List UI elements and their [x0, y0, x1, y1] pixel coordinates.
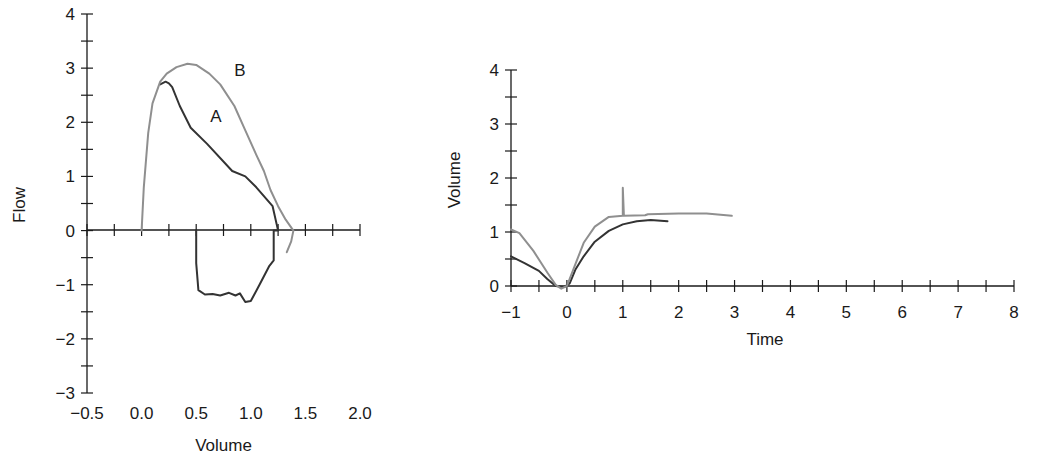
x-tick-label: 5 [842, 303, 851, 322]
y-tick-label: 1 [490, 223, 499, 242]
x-tick-label: 1.5 [294, 404, 318, 423]
x-tick-label: 0.0 [130, 404, 154, 423]
x-tick-label: 0.5 [184, 404, 208, 423]
curve-label-a: A [210, 107, 222, 126]
x-tick-label: −0.5 [70, 404, 104, 423]
flow-volume-chart: −3−2−101234−0.50.00.51.01.52.0VolumeFlow… [10, 5, 372, 455]
x-axis-label: Time [746, 330, 783, 349]
y-axis-label: Volume [445, 152, 464, 209]
y-tick-label: −2 [56, 330, 75, 349]
series-b [142, 64, 294, 252]
x-tick-label: 1 [618, 303, 627, 322]
y-tick-label: 4 [490, 61, 499, 80]
x-tick-label: 1.0 [239, 404, 263, 423]
y-tick-label: 2 [490, 169, 499, 188]
curve-label-b: B [234, 61, 245, 80]
x-tick-label: 4 [786, 303, 795, 322]
x-tick-label: −1 [501, 303, 520, 322]
y-tick-label: −1 [56, 276, 75, 295]
y-tick-label: 1 [66, 167, 75, 186]
y-tick-label: 4 [66, 5, 75, 24]
y-tick-label: −3 [56, 384, 75, 403]
x-tick-label: 2 [674, 303, 683, 322]
y-tick-label: 2 [66, 113, 75, 132]
x-tick-label: 7 [953, 303, 962, 322]
series-b [511, 188, 732, 289]
x-tick-label: 3 [730, 303, 739, 322]
volume-time-chart: 01234−1012345678TimeVolume [445, 61, 1019, 349]
x-tick-label: 8 [1009, 303, 1018, 322]
y-tick-label: 3 [490, 115, 499, 134]
y-axis-label: Flow [10, 186, 29, 223]
x-tick-label: 6 [897, 303, 906, 322]
y-tick-label: 0 [490, 277, 499, 296]
x-tick-label: 0 [562, 303, 571, 322]
x-tick-label: 2.0 [348, 404, 372, 423]
y-tick-label: 0 [66, 222, 75, 241]
figure: −3−2−101234−0.50.00.51.01.52.0VolumeFlow… [0, 0, 1037, 470]
x-axis-label: Volume [195, 436, 252, 455]
y-tick-label: 3 [66, 59, 75, 78]
